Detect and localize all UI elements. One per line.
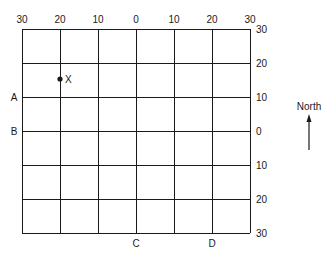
north-label: North — [297, 101, 321, 112]
top-axis-labels: 3020100102030 — [16, 14, 256, 25]
top-axis-tick: 10 — [92, 14, 104, 25]
point-x-label: X — [65, 74, 72, 85]
point-x-dot — [57, 76, 62, 81]
grid-map-diagram: 3020100102030 3020100102030 AB CD X Nort… — [0, 0, 327, 254]
north-compass: North — [297, 101, 321, 150]
top-axis-tick: 30 — [16, 14, 28, 25]
right-axis-labels: 3020100102030 — [256, 24, 268, 239]
right-axis-tick: 20 — [256, 194, 268, 205]
right-axis-tick: 30 — [256, 228, 268, 239]
right-axis-tick: 10 — [256, 160, 268, 171]
map-grid — [22, 29, 251, 234]
top-axis-tick: 20 — [206, 14, 218, 25]
right-axis-tick: 10 — [256, 92, 268, 103]
right-axis-tick: 30 — [256, 24, 268, 35]
top-axis-tick: 10 — [168, 14, 180, 25]
column-marker-c: C — [132, 238, 139, 249]
row-marker-a: A — [11, 92, 18, 103]
north-arrow-icon — [307, 114, 312, 122]
left-row-markers: AB — [11, 92, 18, 137]
bottom-column-markers: CD — [132, 238, 215, 249]
row-marker-b: B — [11, 126, 18, 137]
top-axis-tick: 20 — [54, 14, 66, 25]
right-axis-tick: 20 — [256, 58, 268, 69]
right-axis-tick: 0 — [256, 126, 262, 137]
column-marker-d: D — [208, 238, 215, 249]
point-x: X — [57, 74, 72, 85]
top-axis-tick: 0 — [133, 14, 139, 25]
top-axis-tick: 30 — [244, 14, 256, 25]
